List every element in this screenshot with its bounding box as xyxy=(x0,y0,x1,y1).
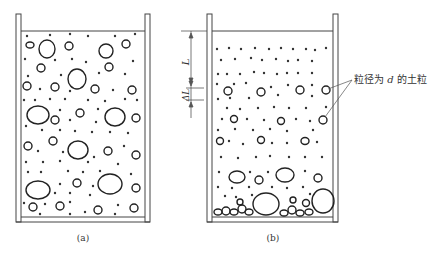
sedimentation-diagram: L ΔL xyxy=(0,0,438,254)
length-label-delta-L: ΔL xyxy=(181,89,191,102)
particle-annotation: 粒径为 d 的土粒 xyxy=(354,73,427,85)
caption-b: (b) xyxy=(267,233,280,243)
dimension-markers xyxy=(181,31,207,118)
particles-a xyxy=(23,40,140,214)
caption-a: (a) xyxy=(77,233,89,243)
container-a-left-wall xyxy=(16,14,21,222)
container-a-right-wall xyxy=(145,14,150,222)
particles-b xyxy=(214,86,334,216)
container-b-right-wall xyxy=(333,14,338,222)
container-b-left-wall xyxy=(207,14,212,222)
d-size-particle-1 xyxy=(322,86,330,94)
length-label-L: L xyxy=(180,58,191,66)
d-size-particle-2 xyxy=(319,116,327,124)
